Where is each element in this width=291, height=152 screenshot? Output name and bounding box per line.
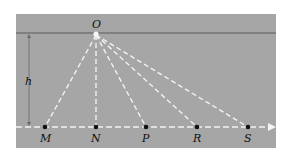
point-n: [94, 125, 99, 130]
point-s: [246, 125, 251, 130]
source-point: [93, 31, 98, 36]
source-label: O: [92, 18, 101, 31]
point-label-n: N: [90, 132, 101, 145]
point-m: [43, 125, 48, 130]
point-label-r: R: [192, 132, 201, 145]
point-label-s: S: [244, 132, 252, 145]
point-p: [144, 125, 149, 130]
diagram-canvas: h O M N P R S: [0, 0, 291, 152]
point-r: [195, 125, 200, 130]
point-label-p: P: [141, 132, 150, 145]
point-label-m: M: [39, 132, 52, 145]
height-label: h: [25, 75, 32, 88]
